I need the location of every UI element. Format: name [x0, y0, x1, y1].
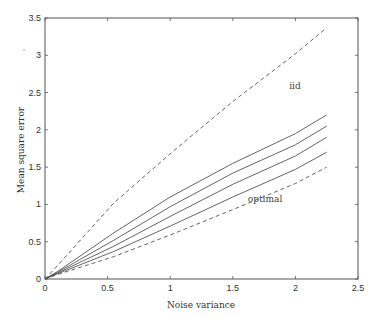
y-axis-label: Mean square error — [16, 106, 26, 193]
x-tick-label: 1 — [168, 283, 173, 293]
y-tick-label: 0.5 — [28, 237, 41, 247]
x-tick-label: 2 — [293, 283, 298, 293]
y-tick-label: 0 — [36, 274, 41, 284]
x-tick-label: 0 — [42, 283, 47, 293]
y-tick-label: 3.5 — [28, 13, 41, 23]
plot-area — [45, 18, 358, 279]
y-tick-label: 3 — [36, 50, 41, 60]
annotation-optimal: optimal — [248, 194, 283, 204]
y-tick-label: 1 — [36, 199, 41, 209]
y-tick-label: 2.5 — [28, 88, 41, 98]
line-chart: 00.511.522.500.511.522.533.5 iidoptimal … — [0, 0, 380, 317]
x-tick-label: 1.5 — [227, 283, 240, 293]
y-tick-label: 2 — [36, 125, 41, 135]
x-axis-label: Noise variance — [167, 300, 235, 310]
y-tick-label: 1.5 — [28, 162, 41, 172]
x-tick-label: 0.5 — [101, 283, 114, 293]
x-tick-label: 2.5 — [352, 283, 365, 293]
annotation-iid: iid — [289, 81, 301, 91]
